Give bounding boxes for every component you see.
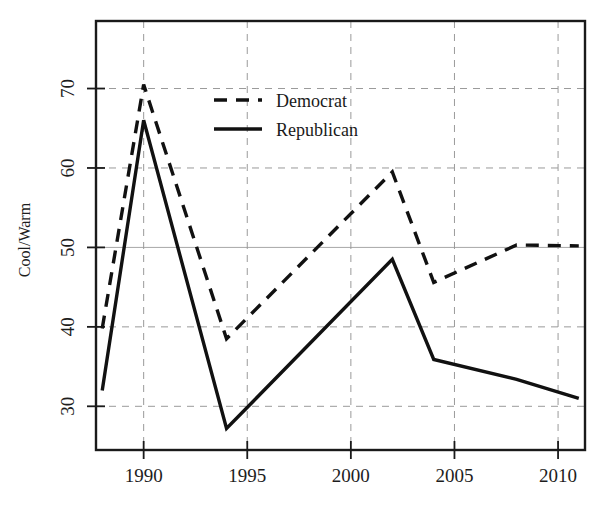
y-tick-label: 30 bbox=[58, 397, 79, 416]
x-tick-label: 2010 bbox=[539, 465, 577, 486]
x-tick-label: 2005 bbox=[435, 465, 473, 486]
x-tick-label: 1995 bbox=[228, 465, 266, 486]
y-tick-label: 70 bbox=[58, 79, 79, 98]
line-chart: 3040506070 19901995200020052010 Cool/War… bbox=[0, 0, 600, 508]
x-tick-label: 2000 bbox=[332, 465, 370, 486]
legend-label-republican: Republican bbox=[276, 120, 358, 140]
legend-label-democrat: Democrat bbox=[276, 91, 347, 111]
x-tick-label: 1990 bbox=[125, 465, 163, 486]
chart-background bbox=[0, 0, 600, 508]
chart-container: 3040506070 19901995200020052010 Cool/War… bbox=[0, 0, 600, 508]
y-axis-title: Cool/Warm bbox=[16, 202, 33, 277]
y-tick-label: 60 bbox=[58, 158, 79, 177]
y-tick-label: 40 bbox=[58, 317, 79, 336]
y-tick-label: 50 bbox=[58, 238, 79, 257]
